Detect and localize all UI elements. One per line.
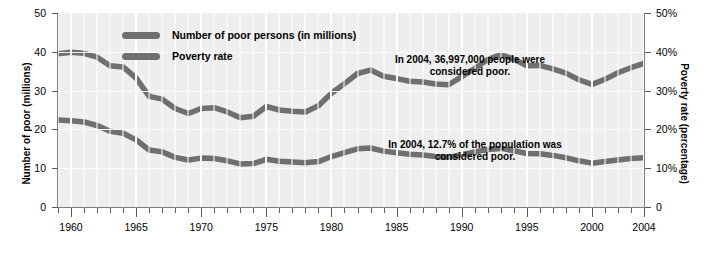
grid-line-vertical <box>539 13 541 207</box>
number-of-poor-annotation: In 2004, 36,997,000 people were consider… <box>372 54 568 78</box>
axis-tick-minor <box>214 208 215 213</box>
grid-line-vertical <box>487 13 489 207</box>
grid-line-horizontal <box>58 129 644 130</box>
axis-tick-minor <box>175 208 176 213</box>
axis-tick <box>52 129 58 130</box>
grid-line-horizontal <box>58 91 644 92</box>
grid-line-vertical <box>370 13 372 207</box>
right-axis-tick-label: 20% <box>656 124 690 134</box>
legend-label: Number of poor persons (in millions) <box>172 29 356 41</box>
axis-tick-minor <box>344 208 345 213</box>
right-axis-tick-label: 30% <box>656 86 690 96</box>
axis-tick-minor <box>188 208 189 213</box>
grid-line-vertical <box>83 13 85 207</box>
poverty-chart-figure: Number of poor (millions) Poverty rate (… <box>0 0 708 257</box>
axis-tick-minor <box>579 208 580 213</box>
grid-line-vertical <box>617 13 619 207</box>
axis-tick-minor <box>449 208 450 213</box>
poverty-rate-annotation: In 2004, 12.7% of the population was con… <box>368 139 582 163</box>
axis-tick-minor <box>566 208 567 213</box>
axis-tick-minor <box>58 208 59 213</box>
axis-tick <box>52 52 58 53</box>
axis-tick-minor <box>371 208 372 213</box>
axis-tick-minor <box>384 208 385 213</box>
right-axis-tick-label: 50% <box>656 8 690 18</box>
grid-line-vertical <box>96 13 98 207</box>
axis-tick-minor <box>227 208 228 213</box>
legend-item-number-of-poor: Number of poor persons (in millions) <box>122 29 356 41</box>
grid-line-vertical <box>526 13 528 207</box>
grid-line-vertical <box>604 13 606 207</box>
left-axis-spine <box>57 13 58 208</box>
legend-item-poverty-rate: Poverty rate <box>122 50 356 62</box>
axis-tick-major <box>644 208 645 217</box>
grid-line-vertical <box>578 13 580 207</box>
axis-tick <box>645 207 651 208</box>
left-axis-tick-label: 10 <box>12 163 46 173</box>
grid-line-vertical <box>448 13 450 207</box>
right-axis-tick-label: 10% <box>656 163 690 173</box>
left-axis-tick-label: 0 <box>12 202 46 212</box>
axis-tick-minor <box>475 208 476 213</box>
x-axis-tick-label: 1970 <box>176 222 226 233</box>
axis-tick-minor <box>618 208 619 213</box>
grid-line-vertical <box>383 13 385 207</box>
x-axis-tick-label: 1975 <box>241 222 291 233</box>
x-axis-tick-label: 1960 <box>46 222 96 233</box>
x-axis-tick-label: 1965 <box>111 222 161 233</box>
x-axis-tick-label: 1995 <box>502 222 552 233</box>
grid-line-vertical <box>357 13 359 207</box>
axis-tick <box>645 91 651 92</box>
grid-line-vertical <box>58 13 59 207</box>
grid-line-vertical <box>513 13 515 207</box>
axis-tick <box>52 91 58 92</box>
axis-tick-minor <box>84 208 85 213</box>
left-axis-tick-label: 20 <box>12 124 46 134</box>
grid-line-vertical <box>422 13 424 207</box>
axis-tick-major <box>201 208 202 217</box>
grid-line-vertical <box>630 13 632 207</box>
axis-tick-major <box>331 208 332 217</box>
axis-tick-minor <box>110 208 111 213</box>
axis-tick-minor <box>514 208 515 213</box>
grid-line-vertical <box>409 13 411 207</box>
axis-tick <box>52 168 58 169</box>
axis-tick-minor <box>605 208 606 213</box>
axis-tick <box>52 13 58 14</box>
axis-tick-minor <box>410 208 411 213</box>
left-axis-tick-label: 50 <box>12 8 46 18</box>
axis-tick-major <box>136 208 137 217</box>
axis-tick-minor <box>553 208 554 213</box>
axis-tick-minor <box>149 208 150 213</box>
legend-label: Poverty rate <box>172 50 233 62</box>
axis-tick-minor <box>123 208 124 213</box>
grid-line-vertical <box>435 13 437 207</box>
axis-tick-minor <box>292 208 293 213</box>
legend-swatch-icon <box>122 32 160 39</box>
axis-tick-minor <box>423 208 424 213</box>
axis-tick-minor <box>436 208 437 213</box>
x-axis-tick-label: 2004 <box>619 222 669 233</box>
axis-tick-minor <box>305 208 306 213</box>
legend-swatch-icon <box>122 53 160 60</box>
axis-tick-minor <box>631 208 632 213</box>
axis-tick-minor <box>253 208 254 213</box>
left-axis-tick-label: 30 <box>12 86 46 96</box>
grid-line-vertical <box>552 13 554 207</box>
axis-tick-minor <box>279 208 280 213</box>
axis-tick-major <box>71 208 72 217</box>
grid-line-vertical <box>109 13 111 207</box>
axis-tick-minor <box>540 208 541 213</box>
axis-tick-minor <box>240 208 241 213</box>
grid-line-vertical <box>461 13 463 207</box>
grid-line-vertical <box>500 13 502 207</box>
chart-legend: Number of poor persons (in millions) Pov… <box>122 29 356 71</box>
x-axis-tick-label: 1990 <box>437 222 487 233</box>
axis-tick-minor <box>97 208 98 213</box>
axis-tick-major <box>266 208 267 217</box>
axis-tick <box>645 52 651 53</box>
axis-tick-major <box>592 208 593 217</box>
axis-tick <box>645 129 651 130</box>
axis-tick-major <box>527 208 528 217</box>
axis-tick-major <box>397 208 398 217</box>
